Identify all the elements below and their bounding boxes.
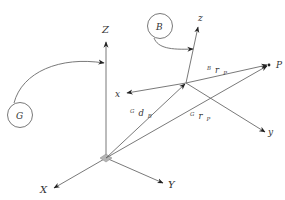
label-brp-sub: P xyxy=(222,70,227,76)
label-grp-sub: P xyxy=(205,116,210,122)
label-grp-pre: G xyxy=(190,111,195,117)
body-frame-label: B xyxy=(155,22,163,32)
label-gdb-pre: G xyxy=(130,108,135,114)
global-y-label: Y xyxy=(168,179,176,190)
vector-labels: G d B G r P B r P xyxy=(130,56,227,122)
label-brp-pre: B xyxy=(206,65,211,71)
label-grp: G r P xyxy=(190,102,210,122)
global-y-axis xyxy=(106,158,163,183)
body-y-label: y xyxy=(267,127,274,137)
body-x-label: x xyxy=(115,89,120,99)
body-frame-tag: B xyxy=(148,14,194,50)
global-frame-label: G xyxy=(16,111,23,121)
label-brp-main: r xyxy=(215,65,220,75)
global-x-label: X xyxy=(39,184,48,195)
global-frame: Z X Y xyxy=(39,24,176,195)
global-frame-tag: G xyxy=(8,61,105,127)
global-frame-arrow xyxy=(14,61,104,103)
label-gdb: G d B xyxy=(130,99,152,119)
global-z-label: Z xyxy=(101,24,110,35)
coordinate-frame-diagram: Z X Y G z x y B P G d B xyxy=(0,0,285,200)
global-x-axis xyxy=(54,158,106,188)
body-z-label: z xyxy=(197,13,203,23)
point-p-label: P xyxy=(275,60,283,70)
label-brp: B r P xyxy=(206,56,227,76)
label-grp-main: r xyxy=(198,111,203,121)
label-gdb-main: d xyxy=(138,108,144,118)
body-frame-arrow xyxy=(154,38,193,49)
point-p-marker xyxy=(268,64,271,67)
body-z-axis xyxy=(186,27,198,83)
label-gdb-sub: B xyxy=(147,113,152,119)
